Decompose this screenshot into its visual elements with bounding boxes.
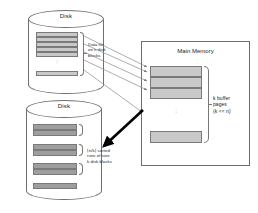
diagram-canvas: Disk : Data file on n disk blocks Disk ⌈… (0, 0, 258, 213)
write-arrow (104, 110, 143, 146)
read-arrows (84, 36, 147, 112)
read-arrow (84, 70, 142, 112)
read-arrow (84, 36, 147, 67)
write-arrow-group (104, 110, 143, 146)
read-arrow (84, 44, 147, 72)
arrow-layer (0, 0, 258, 213)
read-arrow (84, 60, 147, 90)
